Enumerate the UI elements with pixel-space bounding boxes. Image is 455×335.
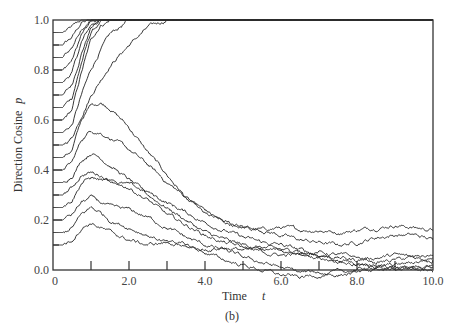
x-tick-label: 4.0 bbox=[198, 274, 213, 288]
series-line-4 bbox=[53, 20, 433, 70]
y-tick-label: 1.0 bbox=[34, 13, 49, 27]
y-axis-label: Direction Cosine bbox=[11, 111, 25, 193]
y-tick-label: 0.6 bbox=[34, 113, 49, 127]
y-axis-title: Direction Cosine p bbox=[11, 98, 25, 193]
y-axis-symbol: p bbox=[11, 98, 25, 105]
x-tick-label: 6.0 bbox=[274, 274, 289, 288]
x-axis-label: Time bbox=[222, 289, 247, 303]
plot-frame bbox=[53, 20, 433, 270]
chart: 02.04.06.08.010.00.00.20.40.60.81.0 Dire… bbox=[0, 0, 455, 335]
x-axis-symbol: t bbox=[262, 289, 266, 303]
series-line-10 bbox=[53, 20, 433, 145]
x-tick-label: 10.0 bbox=[423, 274, 444, 288]
labels-group: 02.04.06.08.010.00.00.20.40.60.81.0 bbox=[34, 13, 444, 288]
series-group bbox=[53, 20, 433, 278]
series-line-11 bbox=[53, 103, 433, 235]
series-line-3 bbox=[53, 20, 433, 58]
figure-caption: (b) bbox=[225, 309, 239, 323]
y-tick-label: 0.8 bbox=[34, 63, 49, 77]
y-tick-label: 0.2 bbox=[34, 213, 49, 227]
series-line-15 bbox=[53, 177, 433, 264]
series-line-1 bbox=[53, 20, 433, 33]
x-tick-label: 8.0 bbox=[350, 274, 365, 288]
series-line-6 bbox=[53, 20, 433, 95]
series-line-13 bbox=[53, 154, 433, 270]
ticks-group bbox=[53, 45, 395, 270]
x-tick-label: 2.0 bbox=[122, 274, 137, 288]
series-line-8 bbox=[53, 20, 433, 120]
series-line-5 bbox=[53, 20, 433, 83]
y-tick-label: 0.0 bbox=[34, 263, 49, 277]
x-axis-title: Time t bbox=[222, 289, 266, 303]
series-line-2 bbox=[53, 20, 433, 45]
series-line-9 bbox=[53, 20, 433, 133]
y-tick-label: 0.4 bbox=[34, 163, 49, 177]
x-tick-label: 0 bbox=[52, 274, 58, 288]
